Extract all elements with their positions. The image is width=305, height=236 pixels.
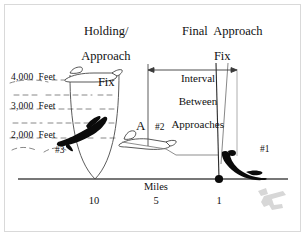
holding-fix-line-3: Fix: [98, 75, 115, 89]
approach-sequencing-diagram: Holding/ Approach Fix Final Approach Fix…: [0, 0, 305, 236]
aircraft-3-label: #3: [55, 146, 65, 156]
tick-label-10: 10: [80, 196, 108, 207]
interval-line-1: Interval: [181, 72, 215, 84]
holding-fix-line-1: Holding/: [84, 24, 128, 38]
interval-line-2: Between: [179, 95, 217, 107]
altitude-label-3000: 3,000 Feet: [11, 102, 56, 112]
holding-approach-fix-title: Holding/ Approach Fix: [54, 12, 146, 101]
watermark-aircraft-icon: [258, 188, 286, 210]
altitude-label-4000: 4,000 Feet: [11, 73, 56, 83]
tick-label-1: 1: [206, 196, 232, 207]
tick-label-5: 5: [143, 196, 169, 207]
final-fix-line-1: Final Approach: [182, 24, 263, 38]
axis-name-miles: Miles: [128, 182, 184, 193]
altitude-label-2000: 2,000 Feet: [11, 131, 56, 141]
aircraft-2-label: #2: [155, 123, 165, 133]
final-approach-fix-dot: [215, 175, 223, 183]
aircraft-1-label: #1: [260, 145, 270, 155]
point-a-label: A: [136, 119, 145, 132]
holding-fix-line-2: Approach: [81, 49, 130, 63]
interval-line-3: Approaches: [171, 118, 224, 130]
